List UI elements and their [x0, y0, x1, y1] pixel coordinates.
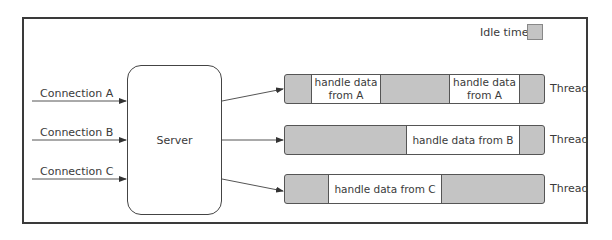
work-segment: handle data from A — [449, 75, 520, 103]
thread-bar-c: handle data from C — [284, 174, 545, 204]
work-segment: handle data from C — [328, 175, 442, 203]
idle-segment — [285, 175, 328, 203]
thread-c-arrow — [222, 179, 283, 191]
idle-segment — [520, 75, 545, 103]
work-segment: handle data from A — [311, 75, 381, 103]
connection-b-label: Connection B — [40, 126, 113, 139]
server-box: Server — [127, 65, 222, 215]
idle-segment — [285, 75, 311, 103]
thread-bar-a: handle data from A handle data from A — [284, 74, 545, 104]
connection-c-label: Connection C — [40, 165, 113, 178]
thread-c-label: Thread — [550, 182, 588, 195]
idle-segment — [381, 75, 449, 103]
idle-segment — [520, 126, 545, 154]
connection-a-label: Connection A — [40, 87, 113, 100]
idle-legend-swatch — [527, 24, 543, 40]
thread-a-label: Thread — [550, 82, 588, 95]
server-label: Server — [128, 134, 221, 147]
idle-segment — [442, 175, 545, 203]
thread-a-arrow — [222, 89, 283, 101]
thread-bar-b: handle data from B — [284, 125, 545, 155]
legend-label: Idle time — [480, 26, 528, 39]
work-segment: handle data from B — [406, 126, 520, 154]
thread-b-label: Thread — [550, 133, 588, 146]
idle-segment — [285, 126, 406, 154]
